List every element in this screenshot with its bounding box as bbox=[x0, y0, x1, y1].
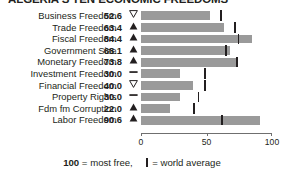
trend-down-icon bbox=[129, 80, 138, 88]
economic-freedoms-chart: ALGERIA'S TEN ECONOMIC FREEDOMS Business… bbox=[0, 0, 284, 177]
freedom-row-trend-up bbox=[127, 45, 139, 57]
world-average-marker bbox=[225, 45, 227, 56]
freedom-row: Financial Freedom40.0 bbox=[0, 80, 284, 92]
trend-flat-icon bbox=[129, 68, 138, 76]
freedom-bar bbox=[141, 58, 238, 67]
freedom-row-trend-down bbox=[127, 80, 139, 92]
freedom-bar bbox=[141, 23, 224, 32]
trend-flat-icon bbox=[129, 91, 138, 99]
axis-tick-label: 100 bbox=[265, 137, 279, 147]
freedom-row-value: 30.0 bbox=[98, 91, 122, 103]
chart-title: ALGERIA'S TEN ECONOMIC FREEDOMS bbox=[8, 0, 228, 5]
freedom-bar bbox=[141, 104, 170, 113]
freedom-row-trend-up bbox=[127, 56, 139, 68]
freedom-row-trend-up bbox=[127, 22, 139, 34]
trend-up-icon bbox=[129, 33, 138, 41]
world-average-marker bbox=[221, 115, 223, 126]
freedom-row-plot bbox=[141, 45, 272, 57]
freedom-row-plot bbox=[141, 114, 272, 126]
freedom-bar bbox=[141, 93, 180, 102]
freedom-bar bbox=[141, 46, 230, 55]
world-average-tick-icon bbox=[146, 158, 148, 167]
axis-tick-mark bbox=[141, 133, 142, 136]
freedom-row: Trade Freedom63.4 bbox=[0, 22, 284, 34]
freedom-row-plot bbox=[141, 33, 272, 45]
freedom-row-trend-flat bbox=[127, 91, 139, 103]
world-average-marker bbox=[220, 10, 222, 21]
world-average-marker bbox=[193, 103, 195, 114]
axis-tick-label: 0 bbox=[139, 137, 144, 147]
freedom-row-value: 68.1 bbox=[98, 45, 122, 57]
world-average-marker bbox=[198, 92, 200, 103]
trend-down-icon bbox=[129, 10, 138, 18]
x-axis: 050100 bbox=[141, 133, 272, 153]
freedom-row: Fdm fm Corruption22.0 bbox=[0, 103, 284, 115]
world-average-marker bbox=[236, 57, 238, 68]
freedom-row: Government Size68.1 bbox=[0, 45, 284, 57]
world-average-marker bbox=[238, 34, 240, 45]
freedom-row: Property Rights30.0 bbox=[0, 91, 284, 103]
freedom-row: Investment Freedom30.0 bbox=[0, 68, 284, 80]
freedom-row-value: 52.6 bbox=[98, 10, 122, 22]
freedom-bar bbox=[141, 116, 260, 125]
freedom-row: Monetary Freedom73.8 bbox=[0, 56, 284, 68]
freedom-row-value: 30.0 bbox=[98, 68, 122, 80]
world-average-marker bbox=[204, 68, 206, 79]
world-average-marker bbox=[234, 22, 236, 33]
freedom-row-value: 84.4 bbox=[98, 33, 122, 45]
freedom-row-plot bbox=[141, 80, 272, 92]
freedom-row-plot bbox=[141, 10, 272, 22]
freedom-row-trend-down bbox=[127, 10, 139, 22]
freedom-row-trend-up bbox=[127, 114, 139, 126]
axis-tick-mark bbox=[207, 133, 208, 136]
trend-up-icon bbox=[129, 22, 138, 30]
legend-average-text: = world average bbox=[150, 157, 221, 168]
freedom-row-plot bbox=[141, 103, 272, 115]
freedom-row-value: 63.4 bbox=[98, 22, 122, 34]
freedom-bar bbox=[141, 35, 252, 44]
trend-up-icon bbox=[129, 114, 138, 122]
axis-tick-mark bbox=[271, 133, 272, 136]
freedom-rows: Business Freedom52.6Trade Freedom63.4Fis… bbox=[0, 10, 284, 126]
freedom-row-value: 90.6 bbox=[98, 114, 122, 126]
freedom-bar bbox=[141, 81, 193, 90]
trend-up-icon bbox=[129, 56, 138, 64]
trend-up-icon bbox=[129, 103, 138, 111]
freedom-row-value: 40.0 bbox=[98, 80, 122, 92]
freedom-row: Fiscal Freedom84.4 bbox=[0, 33, 284, 45]
world-average-marker bbox=[204, 80, 206, 91]
freedom-row-plot bbox=[141, 91, 272, 103]
freedom-row: Business Freedom52.6 bbox=[0, 10, 284, 22]
trend-up-icon bbox=[129, 45, 138, 53]
freedom-row-trend-flat bbox=[127, 68, 139, 80]
freedom-row-trend-up bbox=[127, 33, 139, 45]
freedom-bar bbox=[141, 11, 210, 20]
legend-scale-value: 100 bbox=[63, 157, 79, 168]
freedom-row-trend-up bbox=[127, 103, 139, 115]
chart-legend: 100 = most free, = world average bbox=[0, 157, 284, 168]
freedom-bar bbox=[141, 69, 180, 78]
freedom-row: Labor Freedom90.6 bbox=[0, 114, 284, 126]
freedom-row-plot bbox=[141, 68, 272, 80]
legend-scale-text: = most free, bbox=[79, 157, 133, 168]
axis-tick-label: 50 bbox=[202, 137, 212, 147]
freedom-row-plot bbox=[141, 22, 272, 34]
freedom-row-plot bbox=[141, 56, 272, 68]
freedom-row-value: 22.0 bbox=[98, 103, 122, 115]
freedom-row-value: 73.8 bbox=[98, 56, 122, 68]
